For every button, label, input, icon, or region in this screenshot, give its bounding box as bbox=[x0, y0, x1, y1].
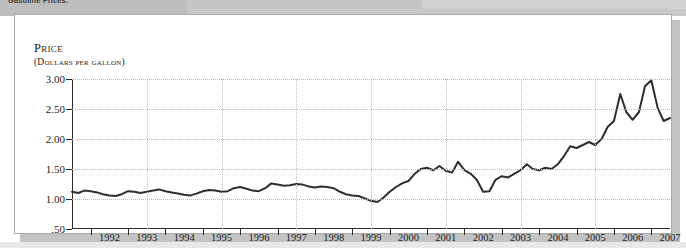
x-axis-tick-labels: 1992199319941995199619971998199920002001… bbox=[72, 232, 670, 246]
y-axis-tick bbox=[66, 229, 72, 230]
x-axis-tick-label: 1993 bbox=[136, 232, 157, 243]
plot-area bbox=[72, 79, 670, 229]
x-axis-tick-label: 2003 bbox=[510, 232, 531, 243]
y-axis-tick-label: 2.50 bbox=[46, 103, 65, 115]
x-axis-tick-label: 2004 bbox=[547, 232, 568, 243]
x-axis-tick-label: 1997 bbox=[286, 232, 307, 243]
figure-panel: Price (Dollars per gallon) 3.002.502.001… bbox=[14, 14, 672, 234]
x-axis-tick-label: 2005 bbox=[585, 232, 606, 243]
y-axis-tick-label: 2.00 bbox=[46, 133, 65, 145]
chart-title: Price bbox=[34, 42, 125, 55]
x-axis-tick-label: 1995 bbox=[211, 232, 232, 243]
x-axis-tick-label: 1998 bbox=[323, 232, 344, 243]
x-axis-tick-label: 2000 bbox=[398, 232, 419, 243]
chart-subtitle: (Dollars per gallon) bbox=[34, 56, 125, 68]
y-axis-tick bbox=[66, 109, 72, 110]
y-axis-tick-label: .50 bbox=[51, 223, 65, 235]
x-axis-tick-label: 2002 bbox=[473, 232, 494, 243]
x-axis-tick-label: 2006 bbox=[622, 232, 643, 243]
vertical-gridline bbox=[521, 79, 522, 229]
y-axis-tick bbox=[66, 139, 72, 140]
y-axis-tick bbox=[66, 79, 72, 80]
vertical-gridline bbox=[222, 79, 223, 229]
y-axis-tick-labels: 3.002.502.001.501.00.50 bbox=[32, 79, 65, 229]
x-axis-tick-label: 1999 bbox=[361, 232, 382, 243]
y-axis-tick bbox=[66, 199, 72, 200]
vertical-gridline bbox=[371, 79, 372, 229]
vertical-gridline bbox=[147, 79, 148, 229]
y-axis-tick-label: 1.00 bbox=[46, 193, 65, 205]
x-axis-tick-label: 1996 bbox=[248, 232, 269, 243]
header-band-segment-middle bbox=[186, 0, 422, 9]
y-axis-tick-label: 3.00 bbox=[46, 73, 65, 85]
x-axis-tick-label: 2001 bbox=[435, 232, 456, 243]
clipped-figure-caption: Gasoline Prices. bbox=[8, 0, 68, 5]
vertical-gridline bbox=[296, 79, 297, 229]
panel-shadow-right bbox=[672, 20, 680, 242]
x-axis-tick-label: 2007 bbox=[660, 232, 681, 243]
x-axis-tick-label: 1992 bbox=[99, 232, 120, 243]
axis-title-block: Price (Dollars per gallon) bbox=[34, 42, 125, 68]
y-axis-tick bbox=[66, 169, 72, 170]
y-axis-tick-label: 1.50 bbox=[46, 163, 65, 175]
vertical-gridline bbox=[595, 79, 596, 229]
header-band-segment-right bbox=[422, 0, 686, 9]
vertical-gridline bbox=[446, 79, 447, 229]
x-axis-tick-label: 1994 bbox=[174, 232, 195, 243]
